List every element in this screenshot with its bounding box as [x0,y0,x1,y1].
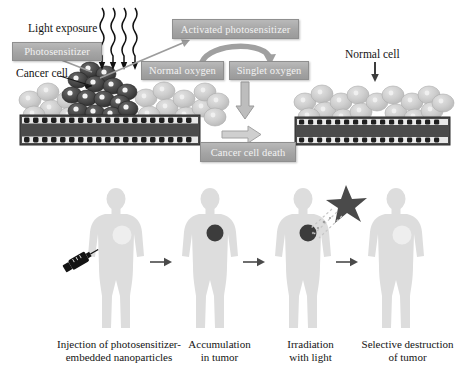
light-star-icon [300,182,372,248]
marker-dark-tumor-step2 [207,225,224,242]
caption-step-destruction: Selective destruction of tumor [350,338,465,364]
label-cancer-cell-text: Cancer cell [16,67,68,79]
label-normal-cell: Normal cell [345,48,400,60]
box-normal-oxygen-label: Normal oxygen [149,65,216,76]
label-cancer-cell: Cancer cell [16,67,68,79]
box-photosensitizer-label: Photosensitizer [24,46,90,57]
box-cancer-cell-death-label: Cancer cell death [211,147,286,158]
caption-destruction-line1: Selective destruction [350,338,465,351]
caption-step-irradiation: Irradiation with light [263,338,358,364]
caption-destruction-line2: of tumor [350,351,465,364]
label-light-exposure-text: Light exposure [28,22,97,34]
box-normal-oxygen[interactable]: Normal oxygen [141,61,224,80]
singlet-to-death-arrow [236,82,254,120]
box-cancer-cell-death[interactable]: Cancer cell death [200,142,296,162]
box-singlet-oxygen[interactable]: Singlet oxygen [229,61,309,80]
label-light-exposure: Light exposure [28,22,97,34]
caption-irradiation-line1: Irradiation [263,338,358,351]
marker-light-spot-step4 [393,226,412,245]
label-normal-cell-text: Normal cell [345,48,400,60]
caption-accumulation-line2: in tumor [167,351,272,364]
death-horizontal-arrow [222,126,262,143]
caption-accumulation-line1: Accumulation [167,338,272,351]
caption-irradiation-line2: with light [263,351,358,364]
syringe-icon [58,244,102,276]
box-singlet-oxygen-label: Singlet oxygen [237,65,302,76]
box-photosensitizer[interactable]: Photosensitizer [12,42,102,61]
marker-light-spot-step1 [113,226,132,245]
box-activated-photosensitizer[interactable]: Activated photosensitizer [172,19,299,39]
caption-step-accumulation: Accumulation in tumor [167,338,272,364]
box-activated-photosensitizer-label: Activated photosensitizer [181,24,291,35]
figure-canvas: Photosensitizer Activated photosensitize… [0,0,467,380]
